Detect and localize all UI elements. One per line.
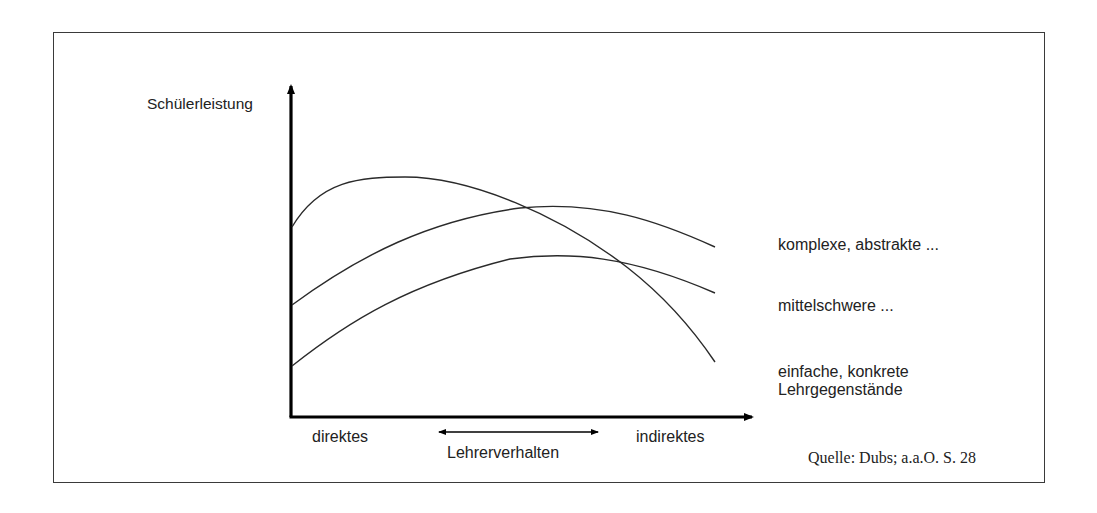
source-citation: Quelle: Dubs; a.a.O. S. 28 [808,449,976,467]
chart-plot [0,0,1097,513]
legend-label-komplexe: komplexe, abstrakte ... [778,235,939,254]
curve-komplexe [292,256,715,366]
legend-label-einfache-line2: Lehrgegenstände [778,380,903,399]
legend-label-einfache-line1: einfache, konkrete [778,362,909,381]
x-tick-direktes: direktes [312,427,368,446]
x-axis-title: Lehrerverhalten [447,443,559,462]
x-tick-indirektes: indirektes [636,427,704,446]
curve-mittelschwere [292,206,715,305]
y-axis-label: Schülerleistung [147,94,253,113]
legend-label-mittelschwere: mittelschwere ... [778,296,894,315]
